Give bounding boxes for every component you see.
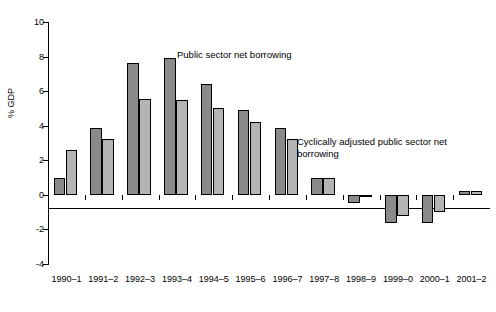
annotation-public-sector-net-borrowing: Public sector net borrowing	[177, 49, 292, 61]
x-axis-label: 1990–1	[51, 274, 81, 284]
y-tick-label: 8	[39, 52, 44, 62]
bar-group	[48, 22, 85, 264]
bar	[201, 84, 213, 195]
bar	[323, 178, 335, 194]
x-axis-label: 1995–6	[236, 274, 266, 284]
bar	[360, 195, 372, 197]
bar	[397, 195, 409, 217]
x-axis-label: 1998–9	[346, 274, 376, 284]
y-tick-label: 2	[39, 155, 44, 165]
bar	[164, 58, 176, 195]
x-axis-label: 1996–7	[272, 274, 302, 284]
bar	[90, 128, 102, 195]
bar	[459, 191, 471, 194]
x-axis-label: 1999–0	[383, 274, 413, 284]
bar	[471, 191, 483, 194]
bar-group	[85, 22, 122, 264]
y-tick-label: -4	[36, 259, 44, 269]
bar	[238, 110, 250, 195]
bar	[250, 122, 262, 195]
x-axis-label: 1991–2	[88, 274, 118, 284]
bar	[54, 178, 66, 195]
annotation-cyclically-adjusted: Cyclically adjusted public sector net bo…	[297, 136, 447, 160]
y-tick-label: 4	[39, 121, 44, 131]
bar	[213, 108, 225, 194]
bar	[311, 178, 323, 194]
bar	[275, 128, 287, 195]
x-axis-label: 1997–8	[309, 274, 339, 284]
bar	[176, 100, 188, 195]
x-axis-label: 1992–3	[125, 274, 155, 284]
bar-chart: % GDP -4-20246810 1990–11991–21992–31993…	[0, 0, 496, 312]
y-tick-label: 10	[34, 17, 44, 27]
x-axis-label: 1993–4	[162, 274, 192, 284]
x-axis-label: 2000–1	[420, 274, 450, 284]
bar	[127, 63, 139, 195]
y-tick-label: 6	[39, 86, 44, 96]
y-tick-label: -2	[36, 224, 44, 234]
bar	[422, 195, 434, 223]
bar	[102, 139, 114, 195]
bar	[434, 195, 446, 212]
y-axis-title: % GDP	[6, 88, 16, 118]
bar-group	[122, 22, 159, 264]
y-tick-label: 0	[39, 190, 44, 200]
x-axis-label: 1994–5	[199, 274, 229, 284]
bar-group	[453, 22, 490, 264]
bar	[348, 195, 360, 204]
x-axis-label: 2001–2	[457, 274, 487, 284]
bar	[385, 195, 397, 223]
bar	[139, 99, 151, 195]
bar	[66, 150, 78, 195]
